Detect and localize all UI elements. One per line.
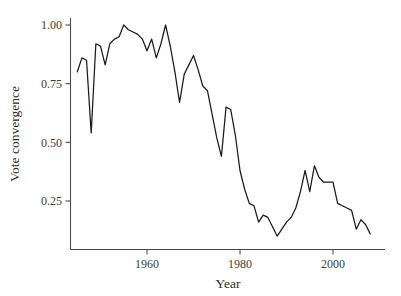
x-tick-label: 2000 (321, 257, 345, 271)
line-chart-canvas: 0.250.500.751.00 196019802000 Year Vote … (0, 0, 401, 296)
x-axis-title: Year (216, 276, 241, 291)
x-axis-ticks: 196019802000 (135, 250, 345, 272)
x-tick-label: 1980 (228, 257, 252, 271)
chart-figure: 0.250.500.751.00 196019802000 Year Vote … (0, 0, 401, 296)
y-tick-label: 0.50 (41, 136, 62, 150)
y-axis-ticks: 0.250.500.751.00 (41, 18, 71, 208)
y-tick-label: 0.25 (41, 194, 62, 208)
data-series-line (77, 25, 370, 236)
y-tick-label: 1.00 (41, 18, 62, 32)
y-tick-label: 0.75 (41, 77, 62, 91)
x-tick-label: 1960 (135, 257, 159, 271)
y-axis-title: Vote convergence (7, 86, 22, 182)
